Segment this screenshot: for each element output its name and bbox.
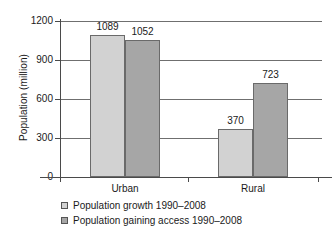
legend-item-growth: Population growth 1990–2008 bbox=[61, 199, 242, 212]
bar-chart: Population (million) 12009006003000 1089… bbox=[0, 0, 333, 235]
bar-value-label: 723 bbox=[245, 70, 296, 80]
category-label-rural: Rural bbox=[218, 183, 288, 194]
category-label-urban: Urban bbox=[90, 183, 160, 194]
bars-layer: 10891052370723 bbox=[0, 21, 333, 177]
bar bbox=[253, 83, 288, 177]
legend-item-access: Population gaining access 1990–2008 bbox=[61, 214, 242, 227]
bar-value-label: 1052 bbox=[117, 27, 168, 37]
x-tick-right bbox=[318, 177, 319, 182]
legend-label-access: Population gaining access 1990–2008 bbox=[73, 215, 242, 226]
x-axis-line bbox=[40, 177, 332, 178]
legend-label-growth: Population growth 1990–2008 bbox=[73, 200, 206, 211]
legend-swatch-icon bbox=[61, 217, 68, 224]
bar bbox=[90, 35, 125, 177]
legend-swatch-icon bbox=[61, 202, 68, 209]
legend: Population growth 1990–2008 Population g… bbox=[61, 199, 242, 229]
bar bbox=[125, 40, 160, 177]
x-tick-left bbox=[60, 177, 61, 182]
x-tick-middle bbox=[188, 177, 189, 182]
bar bbox=[218, 129, 253, 177]
